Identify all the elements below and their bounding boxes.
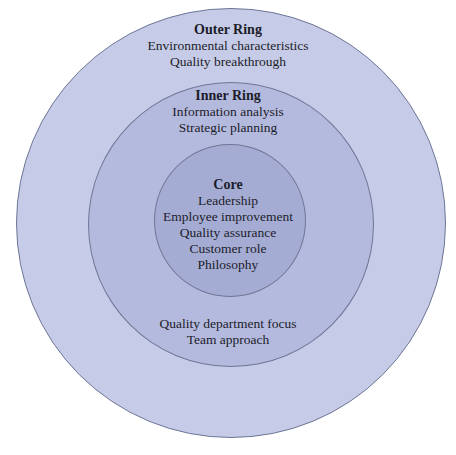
outer-ring-labels: Outer Ring Environmental characteristics… [0, 22, 456, 70]
core-item: Leadership [0, 193, 456, 209]
outer-ring-item: Environmental characteristics [0, 38, 456, 54]
core-item: Philosophy [0, 257, 456, 273]
inner-ring-title: Inner Ring [0, 88, 456, 104]
inner-ring-item: Quality department focus [0, 316, 456, 332]
inner-ring-item: Strategic planning [0, 120, 456, 136]
outer-ring-title: Outer Ring [0, 22, 456, 38]
core-item: Customer role [0, 241, 456, 257]
core-labels: Core Leadership Employee improvement Qua… [0, 177, 456, 273]
core-title: Core [0, 177, 456, 193]
core-item: Employee improvement [0, 209, 456, 225]
core-item: Quality assurance [0, 225, 456, 241]
inner-ring-item: Information analysis [0, 104, 456, 120]
inner-ring-labels-top: Inner Ring Information analysis Strategi… [0, 88, 456, 136]
inner-ring-labels-bottom: Quality department focus Team approach [0, 316, 456, 348]
inner-ring-item: Team approach [0, 332, 456, 348]
outer-ring-item: Quality breakthrough [0, 54, 456, 70]
